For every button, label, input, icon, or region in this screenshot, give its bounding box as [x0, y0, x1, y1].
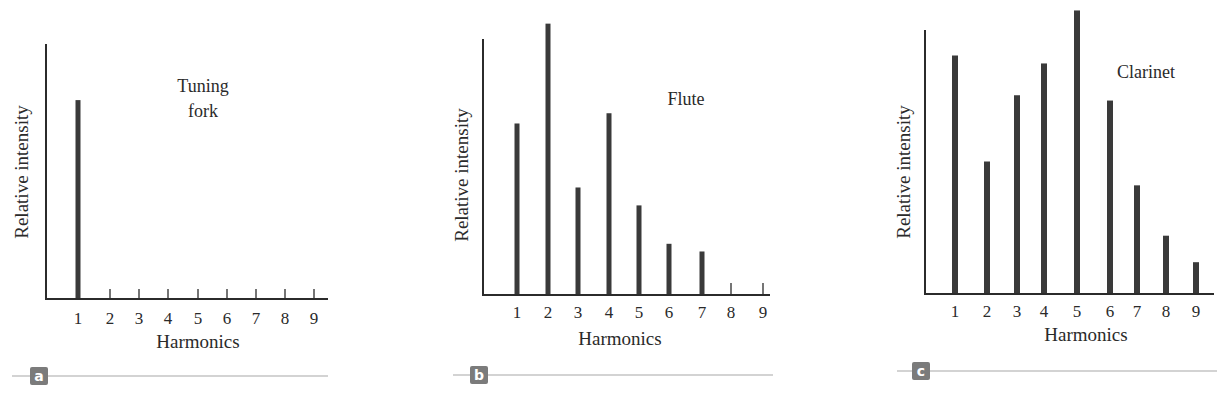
chart-c-svg: 123456789ClarinetHarmonicsRelative inten…	[0, 0, 1227, 406]
y-axis-label: Relative intensity	[893, 105, 914, 239]
x-tick-label: 6	[1106, 302, 1115, 321]
chart-title: Clarinet	[1117, 62, 1175, 82]
x-tick-label: 2	[983, 302, 992, 321]
panel-c-clarinet: 123456789ClarinetHarmonicsRelative inten…	[0, 0, 1227, 406]
x-tick-label: 9	[1192, 302, 1201, 321]
panel-badge-label: c	[917, 363, 925, 379]
x-tick-label: 5	[1073, 302, 1082, 321]
bar-harmonic-6	[1107, 101, 1113, 294]
x-tick-label: 1	[951, 302, 960, 321]
x-axis-label: Harmonics	[1044, 324, 1127, 345]
x-tick-label: 4	[1040, 302, 1049, 321]
bar-harmonic-8	[1163, 236, 1169, 294]
x-tick-label: 8	[1162, 302, 1171, 321]
bar-harmonic-7	[1134, 185, 1140, 294]
bar-harmonic-5	[1074, 10, 1080, 294]
bar-harmonic-4	[1041, 63, 1047, 294]
x-tick-label: 7	[1133, 302, 1142, 321]
bar-harmonic-1	[952, 56, 958, 295]
x-tick-label: 3	[1013, 302, 1022, 321]
bar-harmonic-9	[1193, 262, 1199, 294]
bar-harmonic-2	[984, 162, 990, 295]
bar-harmonic-3	[1014, 95, 1020, 294]
